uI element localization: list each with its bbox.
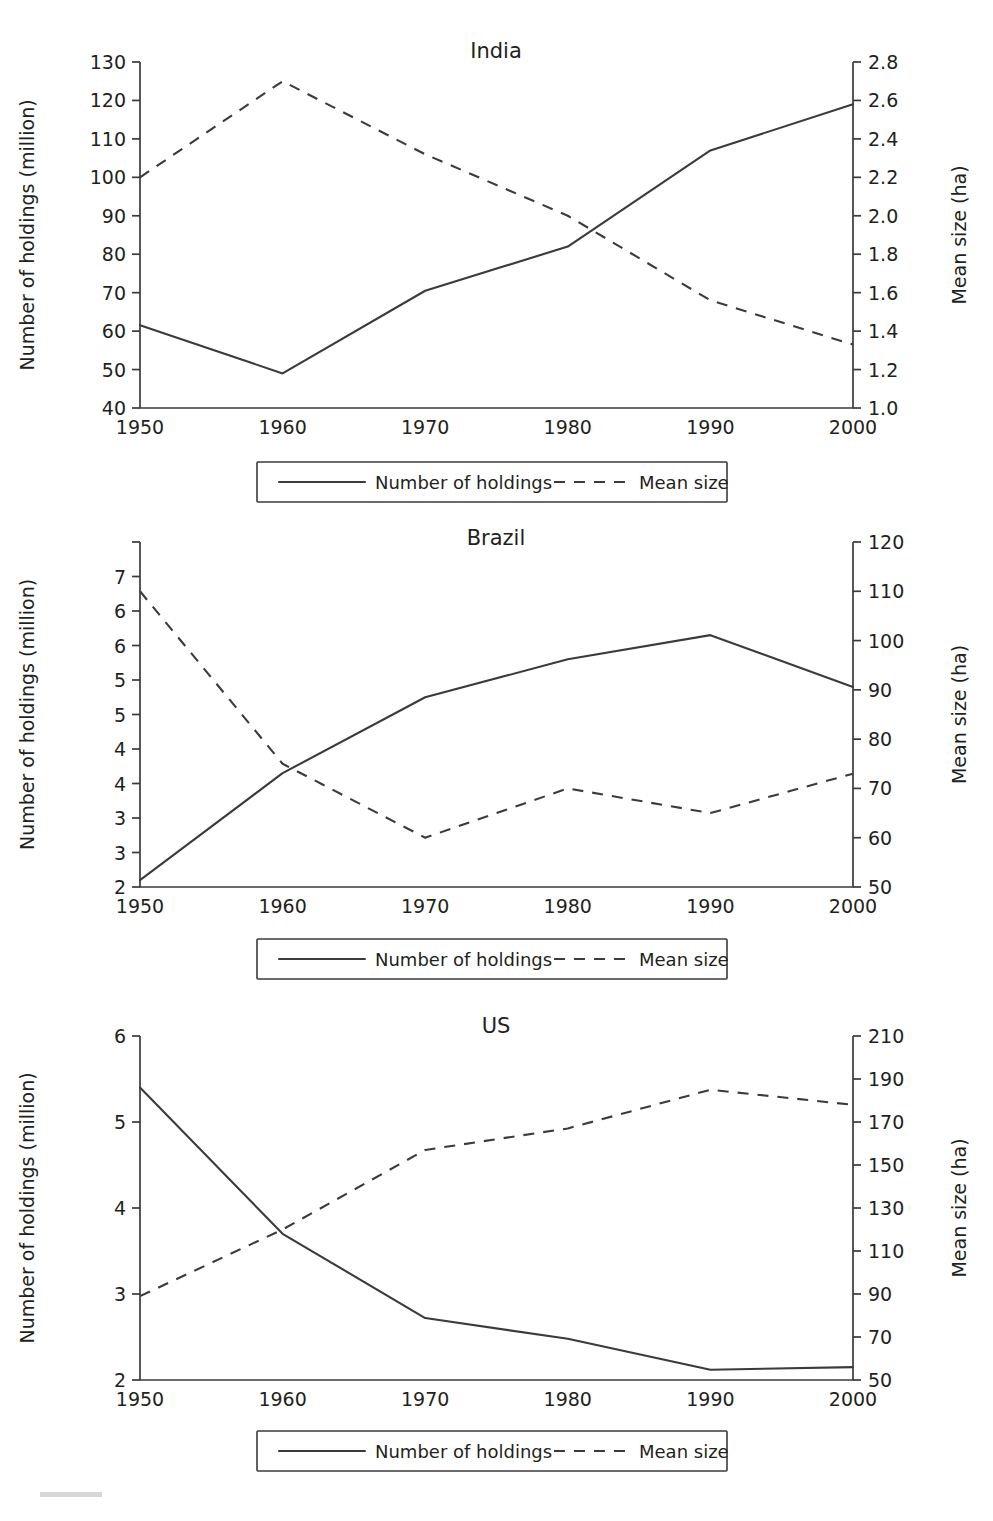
y2-axis-tick-label: 60 (868, 827, 892, 849)
x-axis-tick-label: 1950 (116, 895, 164, 917)
axis-frame (140, 62, 853, 408)
y-axis-title: Number of holdings (million) (16, 1072, 38, 1343)
y-axis-tick-label: 70 (102, 282, 126, 304)
y2-axis-tick-label: 100 (868, 630, 904, 652)
y2-axis-tick-label: 170 (868, 1111, 904, 1133)
series-line-number-of-holdings (140, 1088, 853, 1370)
legend-label-mean-size: Mean size (639, 472, 729, 493)
x-axis-tick-label: 2000 (829, 416, 877, 438)
legend-label-number-of-holdings: Number of holdings (375, 1441, 552, 1462)
y-axis-tick-label: 5 (114, 704, 126, 726)
y2-axis-tick-label: 1.4 (868, 320, 898, 342)
y-axis-tick-label: 50 (102, 359, 126, 381)
legend-label-mean-size: Mean size (639, 949, 729, 970)
x-axis-tick-label: 1950 (116, 1388, 164, 1410)
y2-axis-tick-label: 2.0 (868, 205, 898, 227)
line-chart-india: India4050607080901001101201301.01.21.41.… (0, 0, 993, 515)
y-axis-tick-label: 90 (102, 205, 126, 227)
y2-axis-tick-label: 2.2 (868, 166, 898, 188)
y2-axis-tick-label: 2.4 (868, 128, 898, 150)
y2-axis-title: Mean size (ha) (948, 645, 970, 784)
x-axis-tick-label: 2000 (829, 895, 877, 917)
scan-artifact (40, 1492, 102, 1497)
x-axis-tick-label: 1990 (686, 416, 734, 438)
y2-axis-tick-label: 1.6 (868, 282, 898, 304)
legend-label-number-of-holdings: Number of holdings (375, 472, 552, 493)
y2-axis-tick-label: 90 (868, 1283, 892, 1305)
x-axis-tick-label: 1990 (686, 895, 734, 917)
y-axis-tick-label: 60 (102, 320, 126, 342)
y-axis-tick-label: 80 (102, 243, 126, 265)
y-axis-tick-label: 120 (90, 89, 126, 111)
x-axis-tick-label: 1950 (116, 416, 164, 438)
chart-title: Brazil (467, 526, 526, 550)
y-axis-tick-label: 6 (114, 600, 126, 622)
axis-frame (140, 542, 853, 887)
chart-panel-us: US23456507090110130150170190210195019601… (0, 988, 993, 1478)
y2-axis-tick-label: 150 (868, 1154, 904, 1176)
x-axis-tick-label: 1960 (258, 895, 306, 917)
y2-axis-title: Mean size (ha) (948, 1138, 970, 1277)
y2-axis-tick-label: 110 (868, 580, 904, 602)
y2-axis-tick-label: 1.2 (868, 359, 898, 381)
series-line-mean-size (140, 81, 853, 344)
chart-panel-brazil: Brazil2334455667506070809010011012019501… (0, 515, 993, 988)
y-axis-tick-label: 3 (114, 842, 126, 864)
y-axis-tick-label: 6 (114, 1025, 126, 1047)
x-axis-tick-label: 1970 (401, 895, 449, 917)
legend-label-number-of-holdings: Number of holdings (375, 949, 552, 970)
y2-axis-tick-label: 110 (868, 1240, 904, 1262)
y-axis-tick-label: 130 (90, 51, 126, 73)
line-chart-us: US23456507090110130150170190210195019601… (0, 988, 993, 1478)
x-axis-tick-label: 1980 (544, 895, 592, 917)
series-line-number-of-holdings (140, 104, 853, 373)
y-axis-tick-label: 5 (114, 669, 126, 691)
y-axis-tick-label: 4 (114, 738, 126, 760)
y2-axis-tick-label: 2.8 (868, 51, 898, 73)
y2-axis-tick-label: 1.8 (868, 243, 898, 265)
y2-axis-tick-label: 120 (868, 531, 904, 553)
y2-axis-tick-label: 2.6 (868, 89, 898, 111)
x-axis-tick-label: 1970 (401, 1388, 449, 1410)
line-chart-brazil: Brazil2334455667506070809010011012019501… (0, 515, 993, 988)
y-axis-tick-label: 6 (114, 635, 126, 657)
y2-axis-tick-label: 130 (868, 1197, 904, 1219)
chart-title: US (482, 1014, 511, 1038)
x-axis-tick-label: 1970 (401, 416, 449, 438)
x-axis-tick-label: 1980 (544, 1388, 592, 1410)
x-axis-tick-label: 1960 (258, 1388, 306, 1410)
y-axis-title: Number of holdings (million) (16, 579, 38, 850)
y2-axis-tick-label: 210 (868, 1025, 904, 1047)
y2-axis-title: Mean size (ha) (948, 165, 970, 304)
chart-title: India (470, 39, 522, 63)
chart-panel-india: India4050607080901001101201301.01.21.41.… (0, 0, 993, 515)
x-axis-tick-label: 1980 (544, 416, 592, 438)
legend-label-mean-size: Mean size (639, 1441, 729, 1462)
series-line-number-of-holdings (140, 635, 853, 880)
y2-axis-tick-label: 190 (868, 1068, 904, 1090)
y-axis-tick-label: 4 (114, 773, 126, 795)
x-axis-tick-label: 2000 (829, 1388, 877, 1410)
y2-axis-tick-label: 80 (868, 728, 892, 750)
y-axis-tick-label: 100 (90, 166, 126, 188)
x-axis-tick-label: 1990 (686, 1388, 734, 1410)
y-axis-tick-label: 110 (90, 128, 126, 150)
y2-axis-tick-label: 70 (868, 1326, 892, 1348)
figure-page: India4050607080901001101201301.01.21.41.… (0, 0, 993, 1521)
x-axis-tick-label: 1960 (258, 416, 306, 438)
y-axis-title: Number of holdings (million) (16, 99, 38, 370)
y-axis-tick-label: 3 (114, 1283, 126, 1305)
y-axis-tick-label: 4 (114, 1197, 126, 1219)
y-axis-tick-label: 7 (114, 566, 126, 588)
series-line-mean-size (140, 1090, 853, 1296)
y-axis-tick-label: 5 (114, 1111, 126, 1133)
y-axis-tick-label: 3 (114, 807, 126, 829)
y2-axis-tick-label: 90 (868, 679, 892, 701)
y2-axis-tick-label: 70 (868, 777, 892, 799)
